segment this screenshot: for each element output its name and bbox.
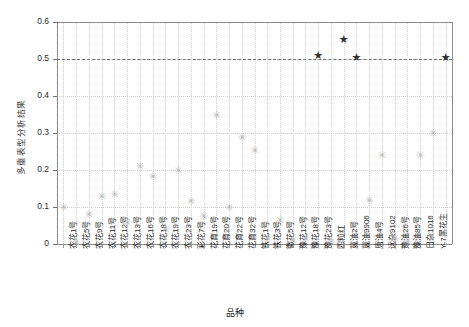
ytick-mark (53, 96, 57, 97)
x-marker[interactable]: ✳ (326, 237, 335, 248)
xtick-mark (280, 245, 281, 248)
xtick-mark (433, 245, 434, 248)
star-marker[interactable]: ★ (351, 52, 361, 63)
x-marker[interactable]: ✳ (288, 235, 297, 246)
xtick-mark (344, 245, 345, 248)
x-marker[interactable]: ✳ (237, 131, 246, 142)
xtick-label-28: 日杂1016 (424, 215, 435, 249)
gridline-vertical (331, 22, 332, 244)
gridline-vertical (420, 22, 421, 244)
xtick-mark (420, 245, 421, 248)
x-marker[interactable]: ✳ (428, 128, 437, 139)
x-marker[interactable]: ✳ (161, 224, 170, 235)
xtick-mark (63, 245, 64, 248)
xtick-mark (305, 245, 306, 248)
xtick-mark (178, 245, 179, 248)
ytick-mark (53, 207, 57, 208)
x-marker[interactable]: ✳ (416, 150, 425, 161)
x-marker[interactable]: ✳ (173, 165, 182, 176)
gridline-vertical (407, 22, 408, 244)
star-marker[interactable]: ★ (313, 50, 323, 61)
x-marker[interactable]: ✳ (377, 150, 386, 161)
x-marker[interactable]: ✳ (250, 144, 259, 155)
gridline-vertical (153, 22, 154, 244)
xtick-mark (89, 245, 90, 248)
axis-right (452, 22, 453, 244)
x-marker[interactable]: ✳ (199, 211, 208, 222)
x-marker[interactable]: ✳ (186, 196, 195, 207)
gridline-vertical (127, 22, 128, 244)
threshold-line (57, 59, 452, 60)
x-marker[interactable]: ✳ (97, 190, 106, 201)
gridline-vertical (76, 22, 77, 244)
gridline-vertical (216, 22, 217, 244)
x-marker[interactable]: ✳ (72, 237, 81, 248)
xtick-mark (229, 245, 230, 248)
x-marker[interactable]: ✳ (365, 194, 374, 205)
gridline-vertical (382, 22, 383, 244)
star-marker[interactable]: ★ (339, 33, 349, 44)
star-marker[interactable]: ★ (441, 52, 451, 63)
gridline-vertical (140, 22, 141, 244)
x-marker[interactable]: ✳ (301, 233, 310, 244)
xtick-mark (153, 245, 154, 248)
xtick-mark (267, 245, 268, 248)
xtick-label-29: Y-7黑花生 (437, 213, 448, 249)
xaxis-title: 品种 (0, 306, 469, 319)
xtick-mark (127, 245, 128, 248)
ytick-label: 0.3 (23, 127, 49, 137)
gridline-vertical (369, 22, 370, 244)
gridline-vertical (280, 22, 281, 244)
ytick-label: 0.2 (23, 164, 49, 174)
xtick-mark (369, 245, 370, 248)
xtick-mark (204, 245, 205, 248)
ytick-label: 0 (23, 238, 49, 248)
xtick-mark (140, 245, 141, 248)
ytick-mark (53, 244, 57, 245)
xtick-mark (356, 245, 357, 248)
xtick-label-23: 冀油9906 (360, 215, 371, 249)
ytick-label: 0.1 (23, 201, 49, 211)
gridline-vertical (191, 22, 192, 244)
xtick-mark (102, 245, 103, 248)
ytick-label: 0.5 (23, 53, 49, 63)
gridline-vertical (178, 22, 179, 244)
x-marker[interactable]: ✳ (403, 237, 412, 248)
gridline-vertical (293, 22, 294, 244)
x-marker[interactable]: ✳ (212, 109, 221, 120)
x-marker[interactable]: ✳ (275, 214, 284, 225)
gridline-vertical (305, 22, 306, 244)
xtick-mark (382, 245, 383, 248)
axis-top (57, 22, 452, 23)
ytick-mark (53, 170, 57, 171)
yaxis-title: 多重表型分析结果 (14, 99, 26, 175)
x-marker[interactable]: ✳ (59, 202, 68, 213)
xtick-mark (165, 245, 166, 248)
x-marker[interactable]: ✳ (135, 161, 144, 172)
xtick-mark (318, 245, 319, 248)
gridline-vertical (102, 22, 103, 244)
ytick-label: 0.6 (23, 16, 49, 26)
x-marker[interactable]: ✳ (263, 233, 272, 244)
x-marker[interactable]: ✳ (122, 216, 131, 227)
x-marker[interactable]: ✳ (148, 170, 157, 181)
chart-container: 00.10.20.30.40.50.6农花1号农花5号农花9号农花11号农花12… (0, 0, 469, 327)
ytick-mark (53, 133, 57, 134)
gridline-vertical (165, 22, 166, 244)
gridline-vertical (114, 22, 115, 244)
xtick-mark (242, 245, 243, 248)
x-marker[interactable]: ✳ (224, 202, 233, 213)
ytick-mark (53, 22, 57, 23)
gridline-vertical (255, 22, 256, 244)
xtick-mark (255, 245, 256, 248)
xtick-mark (395, 245, 396, 248)
xtick-mark (114, 245, 115, 248)
x-marker[interactable]: ✳ (110, 189, 119, 200)
gridline-vertical (395, 22, 396, 244)
xtick-mark (191, 245, 192, 248)
x-marker[interactable]: ✳ (390, 233, 399, 244)
gridline-vertical (267, 22, 268, 244)
xtick-mark (216, 245, 217, 248)
gridline-vertical (344, 22, 345, 244)
x-marker[interactable]: ✳ (84, 209, 93, 220)
